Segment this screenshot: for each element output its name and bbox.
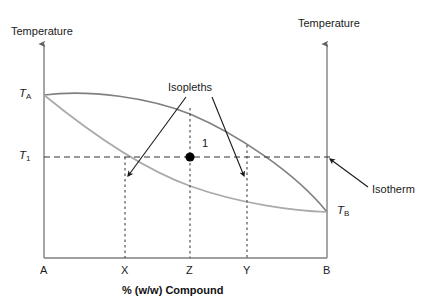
temperature-label-tb: TB xyxy=(337,205,349,217)
t1-base: T xyxy=(19,149,26,161)
isopleths-label: Isopleths xyxy=(168,82,212,93)
phase-diagram-figure: Temperature Temperature TA T1 TB Isoplet… xyxy=(0,0,428,304)
tb-base: T xyxy=(337,204,344,216)
state-point-1-label: 1 xyxy=(202,138,208,149)
ta-subscript: A xyxy=(26,92,31,101)
state-point-1-marker xyxy=(185,152,194,161)
x-tick-label-z: Z xyxy=(186,265,193,276)
ta-base: T xyxy=(19,87,26,99)
x-tick-label-x: X xyxy=(121,265,128,276)
x-tick-label-b: B xyxy=(323,265,330,276)
isotherm-label: Isotherm xyxy=(372,184,415,195)
tb-subscript: B xyxy=(344,209,349,218)
x-tick-label-a: A xyxy=(40,265,47,276)
temperature-label-ta: TA xyxy=(19,88,31,100)
isopleths-leader-left xyxy=(128,97,186,176)
isotherm-leader xyxy=(330,159,368,187)
x-axis-title: % (w/w) Compound xyxy=(122,285,223,296)
diagram-canvas xyxy=(0,0,428,304)
x-tick-label-y: Y xyxy=(243,265,250,276)
temperature-label-t1: T1 xyxy=(19,150,30,162)
liquidus-curve xyxy=(44,93,327,212)
right-axis-title: Temperature xyxy=(298,18,360,29)
left-axis-title: Temperature xyxy=(11,26,73,37)
t1-subscript: 1 xyxy=(26,154,30,163)
isopleths-leader-right xyxy=(212,97,244,176)
